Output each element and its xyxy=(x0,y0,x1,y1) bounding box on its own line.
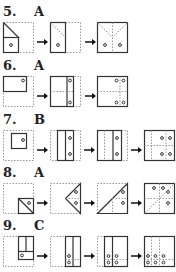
right-arrow-icon xyxy=(131,200,142,206)
step-2-panel xyxy=(51,131,81,161)
right-arrow-icon xyxy=(85,93,96,99)
problem-number: 7. xyxy=(3,112,17,127)
problem-answer: A xyxy=(34,165,44,180)
step-4-panel xyxy=(145,237,175,267)
problem-answer: B xyxy=(34,112,45,127)
problem-number: 8. xyxy=(3,165,17,180)
step-1-panel xyxy=(4,131,34,161)
step-3-panel xyxy=(98,184,128,214)
step-3-panel xyxy=(98,23,128,53)
right-arrow-icon xyxy=(84,200,95,206)
problem-number: 6. xyxy=(3,58,17,73)
step-1-panel xyxy=(4,184,34,214)
step-3-panel xyxy=(98,237,128,267)
step-3-panel xyxy=(98,131,128,161)
problem-6: 6. A xyxy=(0,58,176,112)
problem-8: 8. A xyxy=(0,165,176,219)
fold-sequence xyxy=(0,72,176,112)
problem-number: 5. xyxy=(3,4,17,19)
right-arrow-icon xyxy=(37,147,48,153)
step-2-panel xyxy=(51,23,81,53)
right-arrow-icon xyxy=(84,253,95,259)
fold-sequence xyxy=(0,126,176,166)
right-arrow-icon xyxy=(37,200,48,206)
fold-sequence xyxy=(0,179,176,219)
right-arrow-icon xyxy=(37,39,48,45)
problem-answer: A xyxy=(34,58,44,73)
fold-sequence xyxy=(0,18,176,58)
step-2-panel xyxy=(51,77,81,107)
step-2-panel xyxy=(51,237,81,267)
step-1-panel xyxy=(4,77,34,107)
step-4-panel xyxy=(145,131,175,161)
right-arrow-icon xyxy=(131,147,142,153)
problem-9: 9. C xyxy=(0,218,176,272)
problem-answer: A xyxy=(34,4,44,19)
right-arrow-icon xyxy=(85,39,96,45)
step-2-panel xyxy=(51,184,81,214)
problem-number: 9. xyxy=(3,218,17,233)
right-arrow-icon xyxy=(37,93,48,99)
right-arrow-icon xyxy=(131,253,142,259)
step-1-panel xyxy=(4,237,34,267)
problem-5: 5. A xyxy=(0,4,176,58)
step-4-panel xyxy=(145,184,175,214)
step-1-panel xyxy=(4,23,34,53)
problem-7: 7. B xyxy=(0,112,176,166)
fold-sequence xyxy=(0,232,176,272)
step-3-panel xyxy=(98,77,128,107)
problem-answer: C xyxy=(34,218,44,233)
right-arrow-icon xyxy=(84,147,95,153)
right-arrow-icon xyxy=(37,253,48,259)
